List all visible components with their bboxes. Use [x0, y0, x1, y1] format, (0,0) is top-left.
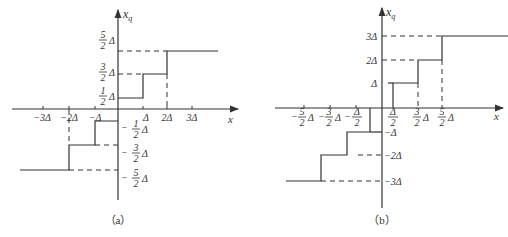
staircase-positive	[118, 51, 218, 98]
svg-text:−3Δ: −3Δ	[384, 176, 402, 187]
svg-text:Δ: Δ	[141, 173, 148, 184]
svg-text:2: 2	[327, 117, 332, 128]
svg-text:−: −	[318, 111, 325, 122]
svg-text:Δ: Δ	[370, 78, 377, 89]
svg-text:3Δ: 3Δ	[365, 31, 377, 42]
svg-text:−Δ: −Δ	[384, 127, 397, 138]
y-axis-label: xq	[385, 5, 395, 21]
svg-text:2: 2	[101, 40, 106, 51]
caption-a: （a）	[105, 214, 132, 226]
svg-text:2: 2	[440, 117, 445, 128]
svg-text:Δ: Δ	[108, 67, 115, 78]
svg-text:Δ: Δ	[334, 112, 341, 123]
svg-text:1: 1	[134, 118, 139, 129]
svg-text:−: −	[121, 172, 128, 183]
svg-text:−: −	[291, 111, 298, 122]
svg-text:Δ: Δ	[353, 106, 360, 117]
svg-text:Δ: Δ	[307, 112, 314, 123]
svg-text:Δ: Δ	[142, 112, 149, 123]
svg-text:−2Δ: −2Δ	[60, 112, 78, 123]
svg-text:Δ: Δ	[141, 148, 148, 159]
svg-text:Δ: Δ	[108, 91, 115, 102]
svg-text:Δ: Δ	[108, 35, 115, 46]
panel-a: xq x −3Δ −2Δ −Δ Δ 2Δ 3Δ 1 2 Δ 3 2 Δ	[12, 7, 238, 226]
svg-text:−: −	[121, 122, 128, 133]
svg-text:−Δ: −Δ	[89, 112, 102, 123]
svg-text:2: 2	[391, 117, 396, 128]
svg-text:2: 2	[101, 96, 106, 107]
svg-text:2: 2	[134, 178, 139, 189]
svg-text:2: 2	[300, 117, 305, 128]
svg-text:3: 3	[414, 106, 420, 117]
svg-text:5: 5	[440, 106, 445, 117]
quantizer-diagram: xq x −3Δ −2Δ −Δ Δ 2Δ 3Δ 1 2 Δ 3 2 Δ	[0, 0, 508, 237]
svg-text:3: 3	[133, 142, 139, 153]
svg-text:2: 2	[355, 117, 360, 128]
caption-b: （b）	[368, 214, 396, 226]
svg-text:−3Δ: −3Δ	[33, 112, 51, 123]
svg-text:Δ: Δ	[422, 112, 429, 123]
x-axis-label: x	[493, 110, 499, 122]
x-tick-labels-negative: − 5 2 Δ − 3 2 Δ − Δ 2	[291, 106, 362, 128]
svg-text:Δ: Δ	[447, 112, 454, 123]
svg-text:5: 5	[101, 29, 106, 40]
svg-text:Δ: Δ	[141, 124, 148, 135]
svg-text:2Δ: 2Δ	[162, 112, 173, 123]
svg-text:3Δ: 3Δ	[186, 112, 198, 123]
svg-text:5: 5	[300, 106, 305, 117]
svg-text:3: 3	[100, 61, 106, 72]
svg-text:1: 1	[101, 85, 106, 96]
y-tick-labels-negative: − 1 2 Δ − 3 2 Δ − 5 2 Δ	[121, 118, 148, 189]
svg-text:2Δ: 2Δ	[366, 55, 377, 66]
svg-text:−: −	[344, 111, 351, 122]
svg-text:2: 2	[415, 117, 420, 128]
panel-b: xq x Δ 2Δ 3Δ −Δ −2Δ −3Δ − 5 2 Δ − 3 2	[275, 5, 508, 226]
y-tick-labels: Δ 2Δ 3Δ −Δ −2Δ −3Δ	[365, 31, 402, 187]
svg-text:Δ: Δ	[389, 106, 396, 117]
svg-text:−: −	[121, 147, 128, 158]
svg-text:2: 2	[134, 153, 139, 164]
svg-text:2: 2	[134, 129, 139, 140]
svg-text:5: 5	[134, 167, 139, 178]
y-axis-label: xq	[122, 7, 132, 23]
svg-text:3: 3	[326, 106, 332, 117]
svg-text:−2Δ: −2Δ	[384, 150, 402, 161]
x-axis-label: x	[227, 113, 233, 125]
y-tick-labels-positive: 1 2 Δ 3 2 Δ 5 2 Δ	[99, 29, 115, 107]
x-tick-labels-positive: Δ 2 3 2 Δ 5 2 Δ	[388, 106, 454, 128]
svg-text:2: 2	[101, 72, 106, 83]
staircase-positive	[393, 36, 508, 108]
